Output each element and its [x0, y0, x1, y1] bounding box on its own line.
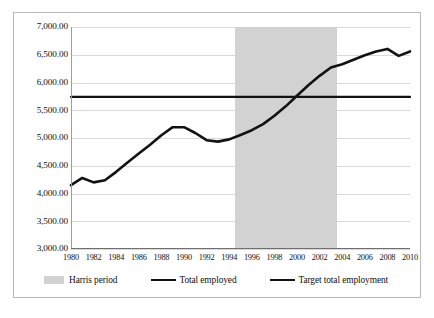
- plot-area: [71, 27, 410, 249]
- legend-label: Harris period: [69, 275, 117, 285]
- total-employed-line: [71, 49, 410, 185]
- y-axis-tick-label: 3,000.00: [16, 244, 68, 253]
- x-axis-tick-label: 2008: [379, 253, 395, 262]
- y-axis-tick-labels: 3,000.003,500.004,000.004,500.005,000.00…: [14, 27, 68, 249]
- x-axis-tick-label: 1992: [199, 253, 215, 262]
- y-axis-line: [71, 27, 72, 249]
- x-axis-tick-label: 2002: [312, 253, 328, 262]
- x-axis-tick-label: 2010: [402, 253, 418, 262]
- x-axis-tick-label: 1984: [108, 253, 124, 262]
- legend-label: Total employed: [179, 275, 236, 285]
- gridline: [71, 249, 410, 250]
- x-axis-tick-label: 1986: [131, 253, 147, 262]
- chart-figure: 3,000.003,500.004,000.004,500.005,000.00…: [13, 12, 421, 298]
- y-axis-tick-label: 5,000.00: [16, 133, 68, 142]
- y-axis-tick-label: 4,000.00: [16, 189, 68, 198]
- legend-label: Target total employment: [298, 275, 388, 285]
- legend-item-target-total-employment: Target total employment: [270, 275, 388, 285]
- x-axis-tick-label: 1988: [153, 253, 169, 262]
- legend-item-harris-period: Harris period: [44, 275, 117, 285]
- x-axis-tick-labels: 1980198219841986198819901992199419961998…: [71, 253, 410, 267]
- y-axis-tick-label: 6,000.00: [16, 78, 68, 87]
- x-axis-tick-label: 2004: [334, 253, 350, 262]
- x-axis-tick-label: 1998: [266, 253, 282, 262]
- series-lines: [71, 27, 410, 249]
- y-axis-tick-label: 6,500.00: [16, 50, 68, 59]
- x-axis-tick-label: 1996: [244, 253, 260, 262]
- x-axis-tick-label: 1990: [176, 253, 192, 262]
- x-axis-tick-label: 1982: [86, 253, 102, 262]
- y-axis-tick-label: 4,500.00: [16, 161, 68, 170]
- legend-line-icon: [151, 279, 176, 281]
- y-axis-tick-label: 3,500.00: [16, 217, 68, 226]
- legend-item-total-employed: Total employed: [151, 275, 236, 285]
- legend-swatch-icon: [44, 276, 64, 284]
- x-axis-tick-label: 2000: [289, 253, 305, 262]
- x-axis-line: [71, 248, 410, 249]
- x-axis-tick-label: 1994: [221, 253, 237, 262]
- y-axis-tick-label: 5,500.00: [16, 106, 68, 115]
- legend-line-icon: [270, 279, 295, 281]
- x-axis-tick-label: 2006: [357, 253, 373, 262]
- chart-legend: Harris period Total employed Target tota…: [44, 271, 404, 289]
- x-axis-tick-label: 1980: [63, 253, 79, 262]
- y-axis-tick-label: 7,000.00: [16, 22, 68, 31]
